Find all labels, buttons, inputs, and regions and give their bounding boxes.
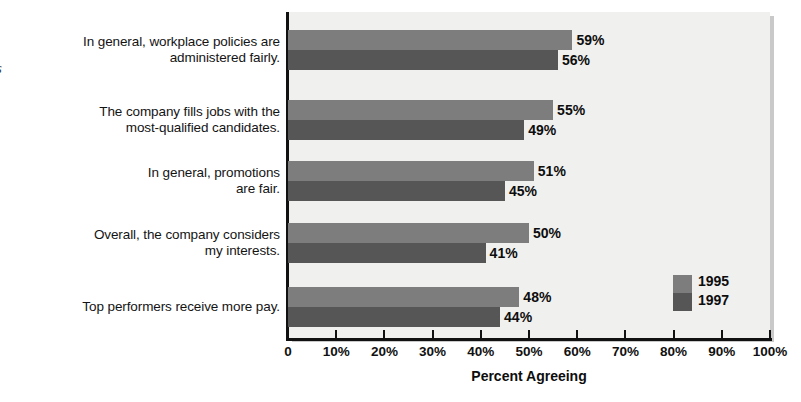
x-axis-tick-label: 90%: [708, 344, 735, 359]
bar-value-label-1995-2: 51%: [538, 161, 566, 181]
legend-label-group: 1995 1997: [698, 272, 729, 310]
legend-swatch-1995: [673, 275, 692, 293]
bar-value-label-1995-0: 59%: [576, 30, 604, 50]
x-axis-tick-label: 30%: [419, 344, 446, 359]
category-label-line: In general, promotions: [8, 165, 280, 182]
x-axis-tick-label: 20%: [371, 344, 398, 359]
x-axis-tick: [383, 330, 385, 339]
bar-1997-4: [288, 307, 500, 327]
category-label-line: Top performers receive more pay.: [8, 299, 280, 316]
x-axis-tick-label: 50%: [515, 344, 542, 359]
bar-1995-3: [288, 223, 529, 243]
category-label-line: The company fills jobs with the: [8, 104, 280, 121]
bar-value-label-1997-3: 41%: [490, 243, 518, 263]
legend-label-1995: 1995: [698, 272, 729, 291]
x-axis-tick-label: 70%: [612, 344, 639, 359]
category-label-line: Overall, the company considers: [8, 227, 280, 244]
x-axis-tick: [480, 330, 482, 339]
category-label-2: In general, promotionsare fair.: [8, 165, 280, 198]
bar-value-label-1995-1: 55%: [557, 100, 585, 120]
x-axis-tick: [673, 330, 675, 339]
x-axis-tick: [287, 330, 289, 339]
bar-value-label-1995-4: 48%: [523, 287, 551, 307]
category-label-line: In general, workplace policies are: [8, 34, 280, 51]
x-axis-tick: [335, 330, 337, 339]
bar-1995-4: [288, 287, 519, 307]
x-axis-tick: [769, 330, 771, 339]
category-label-line: most-qualified candidates.: [8, 120, 280, 137]
bar-1997-3: [288, 243, 486, 263]
category-label-column: In general, workplace policies areadmini…: [8, 12, 280, 340]
x-axis-tick-label: 40%: [467, 344, 494, 359]
bar-1997-1: [288, 120, 524, 140]
x-axis-tick: [721, 330, 723, 339]
bar-value-label-1995-3: 50%: [533, 223, 561, 243]
legend-swatch-1997: [673, 293, 692, 311]
category-label-line: are fair.: [8, 181, 280, 198]
bar-chart: s In general, workplace policies areadmi…: [0, 0, 801, 402]
x-axis-tick-label: 80%: [660, 344, 687, 359]
category-label-line: my interests.: [8, 243, 280, 260]
category-label-1: The company fills jobs with themost-qual…: [8, 104, 280, 137]
x-axis-tick: [576, 330, 578, 339]
x-axis-tick-label: 10%: [323, 344, 350, 359]
bar-value-label-1997-1: 49%: [528, 120, 556, 140]
category-label-0: In general, workplace policies areadmini…: [8, 34, 280, 67]
category-label-4: Top performers receive more pay.: [8, 299, 280, 316]
x-axis-tick: [528, 330, 530, 339]
bar-1997-2: [288, 181, 505, 201]
legend-label-1997: 1997: [698, 291, 729, 310]
x-axis-title: Percent Agreeing: [288, 368, 770, 384]
bar-value-label-1997-0: 56%: [562, 50, 590, 70]
legend: 1995 1997: [668, 270, 764, 316]
legend-swatch-group: [673, 275, 692, 311]
x-axis-tick: [432, 330, 434, 339]
x-axis-tick-label: 100%: [753, 344, 788, 359]
bar-value-label-1997-4: 44%: [504, 307, 532, 327]
cutoff-edge-glyph: s: [0, 60, 1, 77]
bar-1995-0: [288, 30, 572, 50]
bar-1995-1: [288, 100, 553, 120]
x-axis-tick: [624, 330, 626, 339]
bar-value-label-1997-2: 45%: [509, 181, 537, 201]
category-label-3: Overall, the company considersmy interes…: [8, 227, 280, 260]
category-label-line: administered fairly.: [8, 50, 280, 67]
bar-1995-2: [288, 161, 534, 181]
x-axis-tick-label: 0: [284, 344, 292, 359]
x-axis-tick-label: 60%: [564, 344, 591, 359]
bar-1997-0: [288, 50, 558, 70]
